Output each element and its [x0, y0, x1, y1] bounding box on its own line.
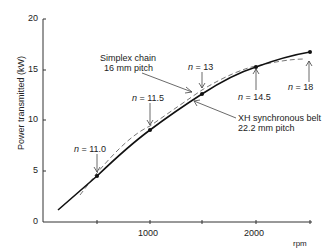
x-tick-1000: 1000: [138, 228, 158, 238]
y-tick-5: 5: [33, 165, 38, 175]
annotation-n-11-0: n = 11.0: [74, 144, 106, 154]
belt-label: XH synchronous belt 22.2 mm pitch: [238, 113, 321, 133]
annotation-n-13: n = 13: [188, 62, 213, 72]
annotation-n-14-5: n = 14.5: [238, 92, 271, 102]
y-tick-10: 10: [28, 114, 38, 124]
x-tick-2000: 2000: [244, 228, 264, 238]
y-tick-0: 0: [33, 216, 38, 226]
y-axis-label: Power transmitted (kW): [16, 56, 26, 150]
y-tick-20: 20: [28, 13, 38, 23]
x-axis-label: rpm: [293, 239, 307, 248]
annotation-n-11-5: n = 11.5: [132, 93, 164, 103]
chain-label: Simplex chain 16 mm pitch: [100, 53, 156, 73]
y-tick-15: 15: [28, 64, 38, 74]
annotation-n-18: n = 18: [288, 82, 313, 92]
